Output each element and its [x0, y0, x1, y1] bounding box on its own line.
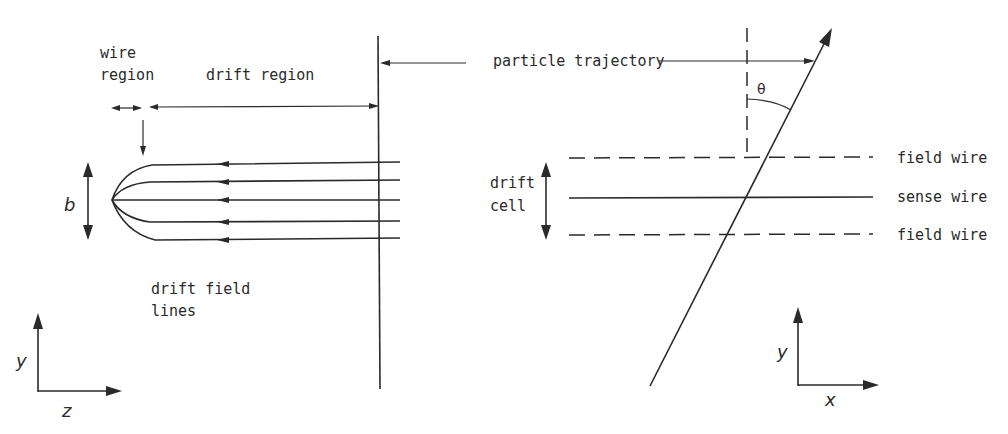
- field-arrow-1: [217, 161, 229, 167]
- field-arrow-3: [217, 197, 229, 203]
- drift-cell-label-line1: drift: [490, 174, 535, 192]
- drift-region-label: drift region: [206, 66, 314, 84]
- b-label: b: [64, 194, 75, 215]
- particle-trajectory-label: particle trajectory: [493, 52, 665, 70]
- drift-field-lines-label-line1: drift field: [151, 280, 250, 298]
- x-axis-label: x: [824, 389, 836, 410]
- field-line-2: [112, 180, 400, 200]
- particle-trajectory-callout: particle trajectory: [380, 52, 815, 70]
- x-axis-arrow: [863, 380, 879, 390]
- z-axis-label: z: [61, 400, 72, 421]
- drift-cell-arrow: [541, 162, 551, 240]
- left-panel: wire region drift region b: [15, 36, 400, 421]
- particle-trajectory-line: [650, 40, 826, 386]
- field-arrow-2: [217, 179, 229, 185]
- field-wire-top-label: field wire: [897, 149, 987, 167]
- drift-cell-label-line2: cell: [490, 197, 526, 215]
- field-wire-bottom-label: field wire: [897, 226, 987, 244]
- trajectory-side-view-line: [378, 36, 380, 389]
- wire-region-label-line1: wire: [100, 44, 136, 62]
- theta-label: θ: [757, 81, 766, 97]
- wire-region-extent-arrow: [111, 105, 142, 111]
- yz-axes: [33, 313, 122, 396]
- y-axis-label-left: y: [15, 350, 27, 371]
- wire-region-label-line2: region: [100, 66, 154, 84]
- field-line-5: [112, 200, 400, 240]
- sense-wire-label: sense wire: [897, 188, 987, 206]
- b-dimension-arrow: [83, 162, 93, 240]
- right-panel: θ drift cell field wire sense wire field…: [490, 28, 987, 410]
- drift-field-lines-label-line2: lines: [151, 302, 196, 320]
- field-wire-top: [569, 157, 873, 158]
- y-axis-arrow: [33, 313, 43, 329]
- field-arrow-5: [217, 237, 229, 243]
- sense-wire: [569, 197, 873, 198]
- drift-field-lines: [112, 161, 400, 243]
- z-axis-arrow: [106, 386, 122, 396]
- drift-region-extent-arrow: [149, 103, 379, 110]
- y-axis-arrow-right: [793, 307, 803, 323]
- drift-chamber-diagram: wire region drift region b: [0, 0, 1008, 434]
- theta-arc: [747, 99, 791, 110]
- field-arrow-4: [217, 219, 229, 225]
- trajectory-arrowhead: [819, 28, 832, 47]
- boundary-pointer-arrow: [140, 120, 146, 156]
- xy-axes: [793, 307, 879, 390]
- field-wire-bottom: [569, 234, 873, 235]
- field-line-4: [112, 200, 400, 222]
- y-axis-label-right: y: [776, 341, 788, 362]
